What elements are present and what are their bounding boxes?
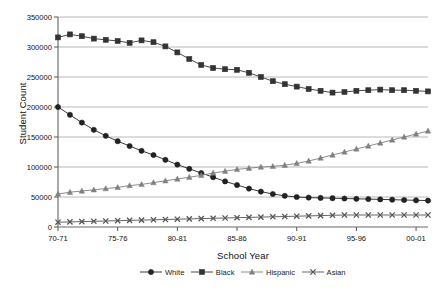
data-point-marker [402, 197, 407, 202]
data-point-marker [163, 44, 168, 49]
data-point-marker [402, 88, 407, 93]
data-point-marker [294, 84, 299, 89]
y-axis-tick-label: 250000 [27, 73, 52, 82]
data-point-marker [91, 36, 96, 41]
data-point-marker [187, 57, 192, 62]
data-point-marker [294, 194, 299, 199]
legend-item-black[interactable]: Black [191, 267, 234, 277]
data-point-marker [342, 196, 347, 201]
data-point-marker [56, 35, 61, 40]
y-axis-tick-label: 150000 [27, 133, 52, 142]
data-point-marker [175, 162, 180, 167]
data-point-marker [67, 112, 72, 117]
data-point-marker [378, 87, 383, 92]
data-point-marker [199, 63, 204, 68]
line-chart: 0500001000001500002000002500003000003500… [0, 0, 441, 290]
legend-item-label: Asian [326, 268, 346, 277]
data-point-marker [200, 270, 205, 275]
x-axis-title: School Year [58, 250, 428, 261]
data-point-marker [425, 128, 430, 133]
data-point-marker [151, 152, 156, 157]
data-point-marker [330, 90, 335, 95]
data-point-marker [139, 38, 144, 43]
legend-item-asian[interactable]: Asian [302, 267, 346, 277]
data-point-marker [366, 88, 371, 93]
data-point-marker [413, 198, 418, 203]
x-axis-tick-label: 70-71 [48, 234, 67, 243]
y-axis-tick-label: 100000 [27, 163, 52, 172]
data-point-marker [354, 88, 359, 93]
series-line [58, 131, 428, 194]
data-point-marker [366, 197, 371, 202]
legend-marker-triangle-icon [241, 267, 263, 277]
y-axis-tick-label: 350000 [27, 13, 52, 22]
data-point-marker [234, 182, 239, 187]
data-point-marker [378, 197, 383, 202]
data-point-marker [175, 50, 180, 55]
data-point-marker [151, 40, 156, 45]
chart-legend: WhiteBlackHispanicAsian [58, 267, 428, 277]
data-point-marker [318, 195, 323, 200]
legend-item-label: Black [215, 268, 235, 277]
data-point-marker [79, 120, 84, 125]
data-point-marker [390, 197, 395, 202]
data-point-marker [127, 143, 132, 148]
y-axis-title: Student Count [17, 44, 28, 184]
data-point-marker [246, 70, 251, 75]
data-point-marker [223, 67, 228, 72]
data-point-marker [211, 66, 216, 71]
data-point-marker [149, 269, 154, 274]
y-axis-tick-label: 0 [48, 223, 52, 232]
series-line [58, 107, 428, 201]
data-point-marker [282, 193, 287, 198]
data-point-marker [163, 157, 168, 162]
x-axis-tick-label: 85-86 [227, 234, 246, 243]
legend-item-hispanic[interactable]: Hispanic [241, 267, 295, 277]
data-point-marker [115, 139, 120, 144]
y-axis-tick-label: 200000 [27, 103, 52, 112]
data-point-marker [306, 87, 311, 92]
y-axis-tick-label: 50000 [31, 193, 52, 202]
data-point-marker [390, 88, 395, 93]
legend-item-label: White [164, 268, 184, 277]
y-axis-tick-label: 300000 [27, 43, 52, 52]
x-axis-tick-label: 00-01 [406, 234, 425, 243]
data-point-marker [258, 75, 263, 80]
data-point-marker [354, 196, 359, 201]
data-point-marker [103, 37, 108, 42]
x-axis-tick-label: 90-91 [287, 234, 306, 243]
data-point-marker [103, 133, 108, 138]
data-point-marker [270, 79, 275, 84]
series-asian [55, 212, 430, 224]
data-point-marker [91, 127, 96, 132]
data-point-marker [342, 90, 347, 95]
data-point-marker [306, 195, 311, 200]
data-point-marker [426, 89, 431, 94]
data-point-marker [270, 191, 275, 196]
data-point-marker [79, 34, 84, 39]
x-axis-tick-label: 80-81 [168, 234, 187, 243]
x-axis-tick-label: 95-96 [347, 234, 366, 243]
data-point-marker [127, 40, 132, 45]
legend-item-white[interactable]: White [140, 267, 184, 277]
series-black [56, 32, 431, 95]
data-point-marker [115, 39, 120, 44]
data-point-marker [330, 196, 335, 201]
data-point-marker [187, 166, 192, 171]
chart-plot-area: 0500001000001500002000002500003000003500… [0, 0, 441, 290]
series-line [58, 34, 428, 92]
data-point-marker [282, 82, 287, 87]
x-axis-tick-label: 75-76 [108, 234, 127, 243]
data-point-marker [246, 186, 251, 191]
data-point-marker [425, 198, 430, 203]
data-point-marker [139, 148, 144, 153]
data-point-marker [414, 88, 419, 93]
data-point-marker [258, 189, 263, 194]
data-point-marker [67, 32, 72, 37]
legend-item-label: Hispanic [265, 268, 295, 277]
legend-marker-circle-icon [140, 267, 162, 277]
data-point-marker [222, 179, 227, 184]
data-point-marker [55, 104, 60, 109]
legend-marker-square-icon [191, 267, 213, 277]
data-point-marker [318, 88, 323, 93]
